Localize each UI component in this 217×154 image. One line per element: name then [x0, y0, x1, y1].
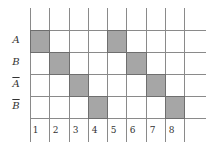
shaded-cell [88, 96, 108, 119]
shaded-cell [165, 96, 185, 119]
shaded-cell [146, 74, 166, 97]
row-label-not-a: A [8, 78, 24, 89]
row-label-not-b: B [8, 100, 24, 111]
shaded-cell [30, 30, 50, 53]
grid-vline [107, 8, 108, 142]
grid-vline [126, 8, 127, 142]
col-label: 3 [66, 125, 85, 135]
grid-vline [184, 8, 185, 142]
shaded-cell [49, 52, 70, 75]
col-label: 5 [104, 125, 123, 135]
shaded-cell [69, 74, 89, 97]
col-label: 4 [85, 125, 104, 135]
shaded-cell [126, 52, 147, 75]
shaded-cell [107, 30, 127, 53]
grid-vline [49, 8, 50, 142]
col-label: 7 [143, 125, 162, 135]
col-label: 2 [46, 125, 65, 135]
col-label: 8 [162, 125, 181, 135]
col-label: 6 [123, 125, 142, 135]
row-label-a: A [8, 34, 24, 45]
grid-vline [30, 8, 31, 142]
col-label: 1 [26, 125, 45, 135]
row-label-b: B [8, 56, 24, 67]
